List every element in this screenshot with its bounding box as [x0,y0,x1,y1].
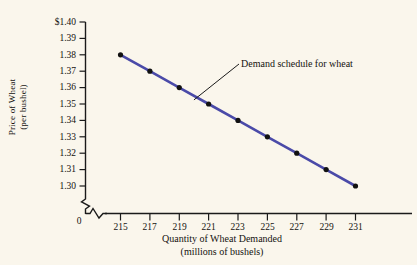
y-tick-label: 1.32 [34,148,76,158]
annotation-leader-line [194,64,239,100]
data-point [265,134,270,139]
x-axis-break-icon [86,209,108,219]
x-tick-label: 215 [106,222,135,232]
curve-annotation-label: Demand schedule for wheat [241,58,353,70]
y-tick-label: 1.35 [34,99,76,109]
x-axis-ticks [121,214,356,221]
data-point [324,167,329,172]
y-tick-label: 1.34 [34,115,76,125]
x-tick-label: 223 [223,222,252,232]
data-point [206,101,211,106]
data-point [353,183,358,188]
data-point [177,85,182,90]
y-tick-label: 1.37 [34,66,76,76]
y-axis-label: Price of Wheat (per bushel) [7,55,29,159]
y-tick-label: 1.30 [34,181,76,191]
y-axis-label-line1: Price of Wheat [7,55,18,159]
y-axis-label-line2: (per bushel) [18,55,29,159]
x-tick-label: 231 [341,222,370,232]
x-tick-label: 225 [253,222,282,232]
y-tick-label: 1.36 [34,82,76,92]
y-tick-label: 1.38 [34,50,76,60]
x-tick-label: 229 [312,222,341,232]
data-point [235,118,240,123]
y-axis-break-icon [82,196,90,214]
y-tick-label: 1.39 [34,33,76,43]
origin-label: 0 [72,216,86,226]
y-tick-label: 1.33 [34,132,76,142]
y-tick-label: $1.40 [34,17,76,27]
data-point [118,52,123,57]
x-tick-label: 219 [165,222,194,232]
y-tick-label: 1.31 [34,164,76,174]
x-axis-label: Quantity of Wheat Demanded (millions of … [88,232,356,258]
x-tick-label: 217 [135,222,164,232]
y-axis-ticks [80,22,86,186]
x-axis-label-line1: Quantity of Wheat Demanded [88,232,356,245]
data-point [294,151,299,156]
chart-figure: $1.40 1.39 1.38 1.37 1.36 1.35 1.34 1.33… [0,0,417,265]
x-tick-label: 221 [194,222,223,232]
x-tick-label: 227 [282,222,311,232]
x-axis-label-line2: (millions of bushels) [88,245,356,258]
data-point [147,69,152,74]
